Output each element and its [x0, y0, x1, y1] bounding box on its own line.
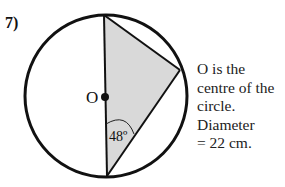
center-point	[101, 93, 109, 101]
note-line: Diameter	[197, 116, 274, 135]
center-label: O	[86, 88, 98, 107]
note-line: centre of the	[197, 79, 274, 98]
shaded-triangle	[104, 15, 180, 176]
problem-note: O is the centre of the circle. Diameter …	[197, 60, 274, 153]
note-line: = 22 cm.	[197, 134, 274, 153]
note-line: O is the	[197, 60, 274, 79]
note-line: circle.	[197, 97, 274, 116]
angle-label: 48º	[109, 129, 128, 144]
